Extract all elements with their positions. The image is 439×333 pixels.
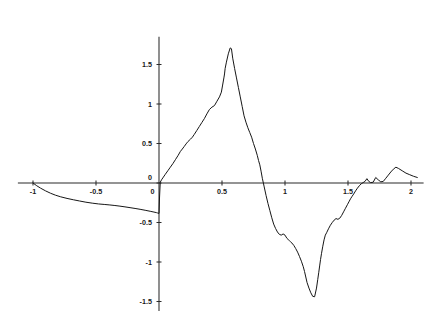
y-tick-label: 0.5 [142, 139, 152, 148]
x-tick-label: 0 [151, 187, 155, 196]
y-tick-label: 1.5 [142, 60, 152, 69]
x-tick-label: 1.5 [343, 187, 353, 196]
x-tick-label: -0.5 [90, 187, 102, 196]
data-curve-signal [33, 48, 417, 297]
x-tick-label: 0.5 [217, 187, 227, 196]
x-tick-label: -1 [30, 187, 36, 196]
y-tick-label: 0 [148, 173, 152, 182]
line-chart-svg: -1-0.500.511.52 -1.5-1-0.500.511.5 [0, 0, 439, 333]
axes-group [18, 37, 424, 311]
y-tick-label: -1.5 [140, 297, 152, 306]
x-tick-label: 2 [409, 187, 413, 196]
y-tick-label: -0.5 [140, 218, 152, 227]
x-tick-label: 1 [283, 187, 287, 196]
chart-figure: -1-0.500.511.52 -1.5-1-0.500.511.5 [0, 0, 439, 333]
y-tick-label: 1 [148, 100, 152, 109]
data-series-group [33, 48, 417, 297]
y-tick-label: -1 [146, 258, 152, 267]
